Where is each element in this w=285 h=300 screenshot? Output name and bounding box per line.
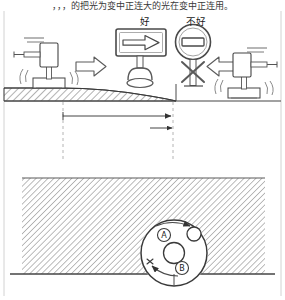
motion-lines-right	[247, 48, 267, 52]
sign-bad-prohibition	[176, 25, 211, 87]
embankment-mound	[4, 88, 176, 101]
figure-canvas: ，，，的把光为变中正连大的光在变中正连用。 好 不好	[0, 0, 285, 300]
hub-circle	[164, 243, 185, 264]
diagram-svg: A B	[0, 0, 285, 300]
label-good: 好	[140, 14, 150, 28]
label-b-text: B	[179, 264, 185, 273]
device-left	[14, 38, 78, 88]
label-bad: 不好	[186, 14, 206, 28]
dimension-group	[63, 102, 173, 160]
satellite-circle	[187, 227, 201, 241]
motion-lines-left	[24, 38, 44, 42]
device-right	[215, 48, 277, 98]
sign-good-arrow	[116, 29, 166, 88]
label-a-text: A	[161, 231, 167, 240]
upper-panel	[4, 25, 281, 102]
lower-panel: A B	[10, 178, 275, 287]
header-text: ，，，的把光为变中正连大的光在变中正连用。	[0, 0, 285, 12]
block-arrow-right	[76, 57, 106, 76]
